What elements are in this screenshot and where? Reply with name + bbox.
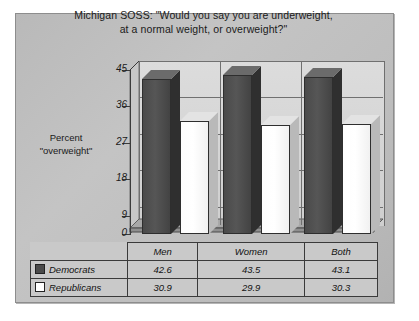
chart-screenshot: Michigan SOSS: "Would you say you are un… [0,0,419,321]
y-axis-caption: Percent "overweight" [26,131,106,157]
bar-republicans-both [342,124,371,234]
cell-democrats-both: 43.1 [305,261,378,279]
y-tick-label-0: 0 [121,227,127,238]
filled-square-icon [35,264,45,274]
legend-label-democrats: Democrats [49,264,95,275]
bar-democrats-men [142,79,171,234]
table-corner-cell [31,243,128,261]
category-separator-2 [301,61,302,225]
bar-democrats-both [304,77,333,234]
table-header-row: Men Women Both [31,243,378,261]
y-axis-caption-line2: "overweight" [40,145,93,156]
legend-label-republicans: Republicans [49,282,101,293]
data-table: Men Women Both Democrats 42.6 43.5 43.1 … [30,242,378,297]
y-axis-caption-line1: Percent [50,132,83,143]
cell-democrats-women: 43.5 [198,261,305,279]
legend-item-republicans: Republicans [31,279,128,297]
y-tick-label-45: 45 [116,63,127,74]
table-header-men: Men [128,243,198,261]
chart-title-line2: at a normal weight, or overweight?" [15,22,392,36]
cell-republicans-women: 29.9 [198,279,305,297]
y-tick-label-9: 9 [121,209,127,220]
gridline-45 [139,61,383,62]
bar-republicans-men [180,121,209,234]
chart-title-line1: Michigan SOSS: "Would you say you are un… [74,9,332,21]
bar-republicans-women [261,125,290,234]
y-tick-label-36: 36 [116,99,127,110]
category-separator-1 [220,61,221,225]
chart-title: Michigan SOSS: "Would you say you are un… [15,8,392,36]
table-header-both: Both [305,243,378,261]
cell-republicans-both: 30.3 [305,279,378,297]
plot-area: 45 36 27 18 9 0 [118,55,380,241]
table-header-women: Women [198,243,305,261]
legend-item-democrats: Democrats [31,261,128,279]
empty-square-icon [35,282,45,292]
y-tick-label-27: 27 [116,136,127,147]
y-axis-line [130,70,131,234]
y-tick-label-18: 18 [116,172,127,183]
bar-democrats-women [223,75,252,234]
table-row: Democrats 42.6 43.5 43.1 [31,261,378,279]
cell-democrats-men: 42.6 [128,261,198,279]
table-row: Republicans 30.9 29.9 30.3 [31,279,378,297]
cell-republicans-men: 30.9 [128,279,198,297]
